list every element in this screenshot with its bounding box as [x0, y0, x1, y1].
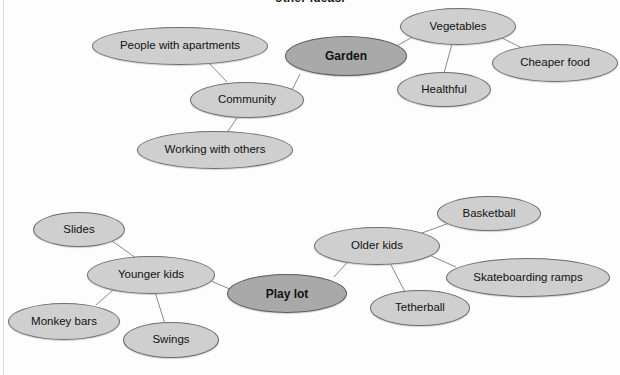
node-people-with-apartments[interactable]: People with apartments [92, 27, 268, 65]
node-label-working-with-others: Working with others [161, 144, 270, 156]
node-skateboarding-ramps[interactable]: Skateboarding ramps [446, 258, 610, 297]
edge-community-garden [292, 74, 300, 90]
node-swings[interactable]: Swings [123, 322, 219, 358]
node-slides[interactable]: Slides [33, 212, 125, 247]
node-label-slides: Slides [59, 224, 98, 236]
node-label-healthful: Healthful [417, 84, 470, 96]
node-label-tetherball: Tetherball [391, 302, 449, 314]
node-play-lot[interactable]: Play lot [227, 274, 347, 313]
node-label-cheaper-food: Cheaper food [516, 57, 594, 69]
concept-map-page: other ideas. People with apartmentsGarde… [0, 0, 620, 375]
edge-older-skateboarding [429, 255, 456, 267]
node-label-garden: Garden [321, 50, 371, 62]
node-garden[interactable]: Garden [285, 36, 407, 76]
edge-vegetables-healthful [444, 44, 452, 73]
node-community[interactable]: Community [190, 82, 304, 118]
node-older-kids[interactable]: Older kids [314, 227, 440, 265]
node-cheaper-food[interactable]: Cheaper food [492, 44, 618, 82]
node-label-basketball: Basketball [458, 208, 519, 220]
node-working-with-others[interactable]: Working with others [137, 131, 293, 169]
edge-older-tetherball [389, 261, 405, 292]
node-label-people-with-apartments: People with apartments [116, 40, 244, 52]
edge-younger-monkey [96, 290, 113, 305]
node-label-skateboarding-ramps: Skateboarding ramps [469, 272, 586, 284]
node-label-vegetables: Vegetables [426, 21, 491, 33]
node-label-older-kids: Older kids [347, 240, 407, 252]
node-label-community: Community [214, 94, 280, 106]
node-label-monkey-bars: Monkey bars [27, 316, 101, 328]
node-label-swings: Swings [148, 334, 193, 346]
node-healthful[interactable]: Healthful [397, 72, 491, 107]
node-label-younger-kids: Younger kids [114, 269, 188, 281]
node-younger-kids[interactable]: Younger kids [87, 256, 215, 294]
node-vegetables[interactable]: Vegetables [400, 8, 516, 45]
node-tetherball[interactable]: Tetherball [370, 290, 470, 326]
node-label-play-lot: Play lot [262, 288, 313, 300]
node-monkey-bars[interactable]: Monkey bars [8, 303, 120, 340]
edge-younger-swings [155, 292, 165, 324]
edge-community-people [208, 62, 227, 82]
node-basketball[interactable]: Basketball [437, 196, 541, 231]
